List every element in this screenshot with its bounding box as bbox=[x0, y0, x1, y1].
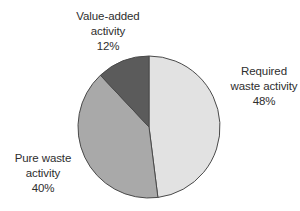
slice-label-line: activity bbox=[76, 24, 139, 39]
pie-slice-required-waste-activity bbox=[149, 56, 220, 197]
slice-label-required-waste: Required waste activity 48% bbox=[231, 64, 298, 109]
slice-value-label: 12% bbox=[76, 39, 139, 54]
slice-label-line: activity bbox=[15, 166, 72, 181]
slice-value-label: 48% bbox=[231, 94, 298, 109]
slice-value-label: 40% bbox=[15, 181, 72, 196]
slice-label-pure-waste: Pure waste activity 40% bbox=[15, 151, 72, 196]
slice-label-line: Value-added bbox=[76, 9, 139, 24]
slice-label-line: Pure waste bbox=[15, 151, 72, 166]
slice-label-line: waste activity bbox=[231, 79, 298, 94]
slice-label-line: Required bbox=[231, 64, 298, 79]
slice-label-value-added: Value-added activity 12% bbox=[76, 9, 139, 54]
